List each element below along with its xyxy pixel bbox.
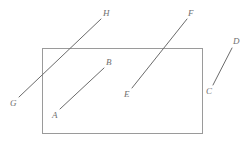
segment-gh xyxy=(19,19,101,97)
point-label-a: A xyxy=(52,111,58,120)
point-label-b: B xyxy=(106,58,112,67)
point-label-g: G xyxy=(10,99,17,108)
point-label-f: F xyxy=(188,9,194,18)
geometry-figure: A B C D E F G H xyxy=(0,0,249,145)
segment-ef xyxy=(132,19,187,88)
segment-cd xyxy=(213,48,232,85)
figure-canvas xyxy=(0,0,249,145)
bounding-rectangle xyxy=(43,49,203,134)
point-label-c: C xyxy=(206,87,212,96)
segment-ab xyxy=(60,68,104,109)
point-label-e: E xyxy=(124,90,130,99)
point-label-h: H xyxy=(103,9,110,18)
point-label-d: D xyxy=(233,37,240,46)
